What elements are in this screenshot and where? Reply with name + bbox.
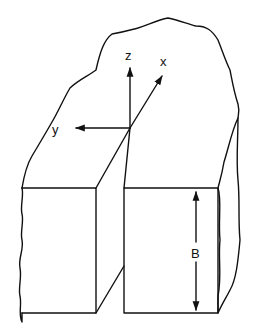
z-axis-label: z bbox=[125, 48, 132, 63]
y-axis-label: y bbox=[52, 122, 59, 137]
left-block-front-face bbox=[22, 188, 96, 313]
right-block-front-face bbox=[124, 188, 218, 313]
x-axis-label: x bbox=[160, 54, 167, 69]
left-block-rough-edge bbox=[19, 188, 22, 322]
left-block-side-face bbox=[96, 128, 130, 313]
crack-diagram: z x y B bbox=[0, 0, 256, 332]
dimension-label-b: B bbox=[191, 246, 200, 261]
x-axis-arrow bbox=[130, 76, 162, 128]
right-rough-edge bbox=[218, 118, 240, 313]
